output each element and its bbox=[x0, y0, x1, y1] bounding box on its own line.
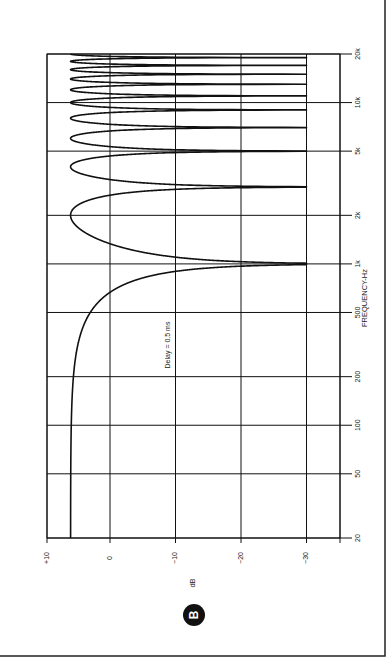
x-tick-label: 1k bbox=[354, 260, 361, 268]
x-tick-label: 10k bbox=[354, 96, 361, 108]
panel-badge-label: B bbox=[187, 610, 201, 619]
x-tick-label: 200 bbox=[354, 371, 361, 383]
x-tick-label: 5k bbox=[354, 147, 361, 155]
x-tick-label: 50 bbox=[354, 470, 361, 478]
y-tick-label: +10 bbox=[43, 552, 50, 564]
y-tick-label: 0 bbox=[106, 556, 113, 560]
y-axis-title: dB bbox=[188, 578, 197, 587]
x-axis-title: FREQUENCY-Hz bbox=[360, 269, 369, 327]
tick-labels: 20501002005001k2k5k10k20k+100−10−20−30 bbox=[43, 48, 361, 564]
y-tick-label: −20 bbox=[237, 552, 244, 564]
y-tick-label: −10 bbox=[171, 552, 178, 564]
x-tick-label: 2k bbox=[354, 211, 361, 219]
x-tick-label: 100 bbox=[354, 419, 361, 431]
comb-filter-chart: 20501002005001k2k5k10k20k+100−10−20−30 D… bbox=[0, 0, 392, 665]
response-curve bbox=[71, 54, 307, 538]
x-tick-label: 20k bbox=[354, 48, 361, 60]
y-tick-label: −30 bbox=[302, 552, 309, 564]
x-tick-label: 20 bbox=[354, 534, 361, 542]
panel-badge: B bbox=[183, 604, 205, 626]
outer-frame bbox=[0, 0, 385, 656]
delay-annotation: Delay = 0.5 ms bbox=[164, 321, 172, 368]
